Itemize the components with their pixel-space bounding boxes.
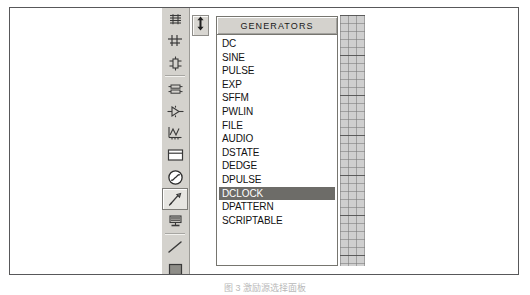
generator-list-item[interactable]: AUDIO — [219, 132, 335, 146]
figure-caption: 图 3 激励源选择面板 — [0, 281, 530, 294]
current-probe-icon — [167, 214, 184, 229]
object-selector-list[interactable]: DCSINEPULSEEXPSFFMPWLINFILEAUDIODSTATEDE… — [219, 37, 335, 263]
generator-icon — [167, 169, 184, 186]
application-workspace: GENERATORS DCSINEPULSEEXPSFFMPWLINFILEAU… — [162, 8, 362, 274]
junction-dot-icon — [167, 34, 183, 48]
voltage-probe-icon — [167, 192, 183, 207]
generator-list-item[interactable]: DPATTERN — [219, 200, 335, 214]
subcircuit-icon — [167, 105, 184, 118]
bus-icon — [168, 83, 183, 95]
generator-list-item[interactable]: SINE — [219, 51, 335, 65]
generator-list-item[interactable]: DPULSE — [219, 173, 335, 187]
tool-graph-mode[interactable] — [162, 122, 188, 144]
wire-label-icon — [168, 56, 183, 71]
generator-list-item[interactable]: DC — [219, 37, 335, 51]
generator-list-item[interactable]: FILE — [219, 119, 335, 133]
tool-component-mode[interactable] — [162, 8, 188, 30]
tool-junction-dot-mode[interactable] — [162, 30, 188, 52]
mode-toolbar — [162, 8, 190, 274]
tape-recorder-icon — [167, 148, 184, 162]
component-icon — [168, 13, 183, 26]
toolbar-divider-2 — [165, 233, 185, 235]
generator-list-item[interactable]: DEDGE — [219, 159, 335, 173]
vertical-double-arrow-icon — [196, 16, 205, 35]
tool-wire-label-mode[interactable] — [162, 52, 188, 74]
graph-icon — [167, 126, 183, 140]
panel-resize-handle[interactable] — [192, 15, 209, 36]
object-selector-header: GENERATORS — [217, 17, 337, 35]
generator-list-item[interactable]: SFFM — [219, 91, 335, 105]
box-tool-icon — [168, 263, 183, 276]
generator-list-item[interactable]: PWLIN — [219, 105, 335, 119]
tool-subcircuit-mode[interactable] — [162, 100, 188, 122]
toolbar-divider-1 — [165, 75, 185, 77]
tool-2d-box-mode[interactable] — [162, 258, 188, 275]
generator-list-item[interactable]: DCLOCK — [219, 187, 335, 201]
tool-generator-mode[interactable] — [162, 166, 188, 188]
generator-list-item[interactable]: SCRIPTABLE — [219, 214, 335, 228]
tool-voltage-probe-mode[interactable] — [162, 188, 188, 210]
figure-frame: GENERATORS DCSINEPULSEEXPSFFMPWLINFILEAU… — [9, 7, 519, 275]
tool-2d-line-mode[interactable] — [162, 236, 188, 258]
tool-current-probe-mode[interactable] — [162, 210, 188, 232]
tool-tape-recorder-mode[interactable] — [162, 144, 188, 166]
line-tool-icon — [167, 240, 183, 254]
tool-bus-mode[interactable] — [162, 78, 188, 100]
generator-list-item[interactable]: PULSE — [219, 64, 335, 78]
generator-list-item[interactable]: EXP — [219, 78, 335, 92]
object-selector-panel: GENERATORS DCSINEPULSEEXPSFFMPWLINFILEAU… — [216, 16, 338, 266]
schematic-grid-canvas[interactable] — [340, 15, 365, 266]
generator-list-item[interactable]: DSTATE — [219, 146, 335, 160]
